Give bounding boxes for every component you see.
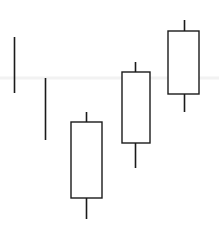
candle-body [168, 31, 199, 94]
chart-canvas [0, 0, 219, 226]
candle-body [122, 72, 150, 143]
candlestick-chart [0, 0, 219, 226]
candle-body [71, 122, 102, 198]
